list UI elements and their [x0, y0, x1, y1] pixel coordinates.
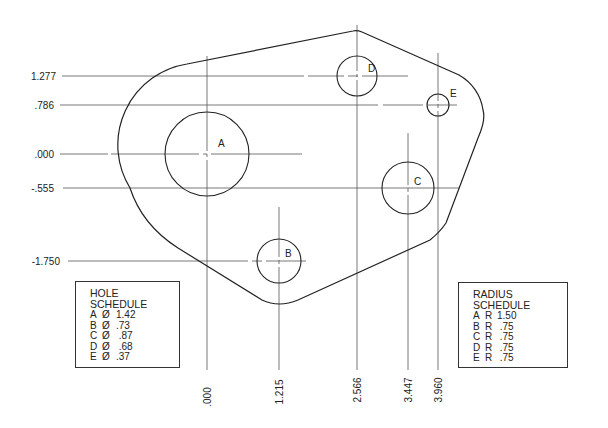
- hole-schedule-table: HOLE SCHEDULE AØ1.42 BØ.73 CØ .87 DØ .68…: [75, 281, 180, 368]
- dim-label-y-1750: -1.750: [32, 256, 61, 267]
- radius-schedule-row: CR .75: [473, 332, 559, 343]
- diameter-symbol: Ø: [102, 310, 116, 321]
- hole-schedule-title: HOLE SCHEDULE: [90, 288, 171, 309]
- dim-label-x-1215: 1.215: [274, 379, 285, 404]
- hole-label-c: C: [414, 176, 421, 187]
- hole-schedule-row: CØ .87: [90, 331, 171, 342]
- radius-schedule-row: AR1.50: [473, 311, 559, 322]
- row-value: .87: [116, 331, 133, 342]
- hole-label-b: B: [285, 248, 292, 259]
- radius-symbol: R: [485, 353, 497, 364]
- dim-label-y-786: .786: [35, 100, 55, 111]
- dim-label-y-000: .000: [35, 149, 55, 160]
- hole-label-d: D: [368, 63, 375, 74]
- hole-label-a: A: [218, 138, 225, 149]
- radius-schedule-row: ER .75: [473, 353, 559, 364]
- diameter-symbol: Ø: [102, 352, 116, 363]
- hole-label-e: E: [450, 88, 457, 99]
- radius-symbol: R: [485, 311, 497, 322]
- radius-schedule-title: RADIUS SCHEDULE: [473, 289, 559, 310]
- row-letter: C: [90, 331, 102, 342]
- row-value: 1.50: [497, 311, 516, 322]
- dim-label-y-555: -.555: [31, 183, 54, 194]
- row-value: .75: [497, 332, 514, 343]
- row-letter: A: [473, 311, 485, 322]
- dim-label-x-000: .000: [202, 387, 213, 407]
- hole-schedule-row: EØ.37: [90, 352, 171, 363]
- dim-label-x-2566: 2.566: [352, 377, 363, 402]
- dim-label-x-3960: 3.960: [433, 377, 444, 402]
- radius-symbol: R: [485, 332, 497, 343]
- radius-schedule-table: RADIUS SCHEDULE AR1.50 BR .75 CR .75 DR …: [458, 282, 568, 368]
- row-letter: E: [90, 352, 102, 363]
- row-letter: E: [473, 353, 485, 364]
- dim-label-x-3447: 3.447: [403, 377, 414, 402]
- hole-schedule-row: AØ1.42: [90, 310, 171, 321]
- diameter-symbol: Ø: [102, 331, 116, 342]
- row-letter: A: [90, 310, 102, 321]
- row-value: .37: [116, 352, 130, 363]
- row-value: 1.42: [116, 310, 135, 321]
- row-value: .75: [497, 353, 514, 364]
- row-letter: C: [473, 332, 485, 343]
- dim-label-y-1277: 1.277: [31, 71, 56, 82]
